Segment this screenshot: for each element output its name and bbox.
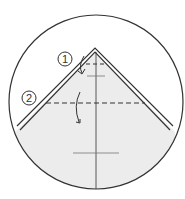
step-2-badge: 2 [22,91,36,105]
svg-text:2: 2 [26,92,32,104]
origami-diagram: 1 2 [0,0,185,199]
svg-text:1: 1 [62,53,68,65]
step-1-badge: 1 [58,52,72,66]
paper-region [15,52,175,199]
